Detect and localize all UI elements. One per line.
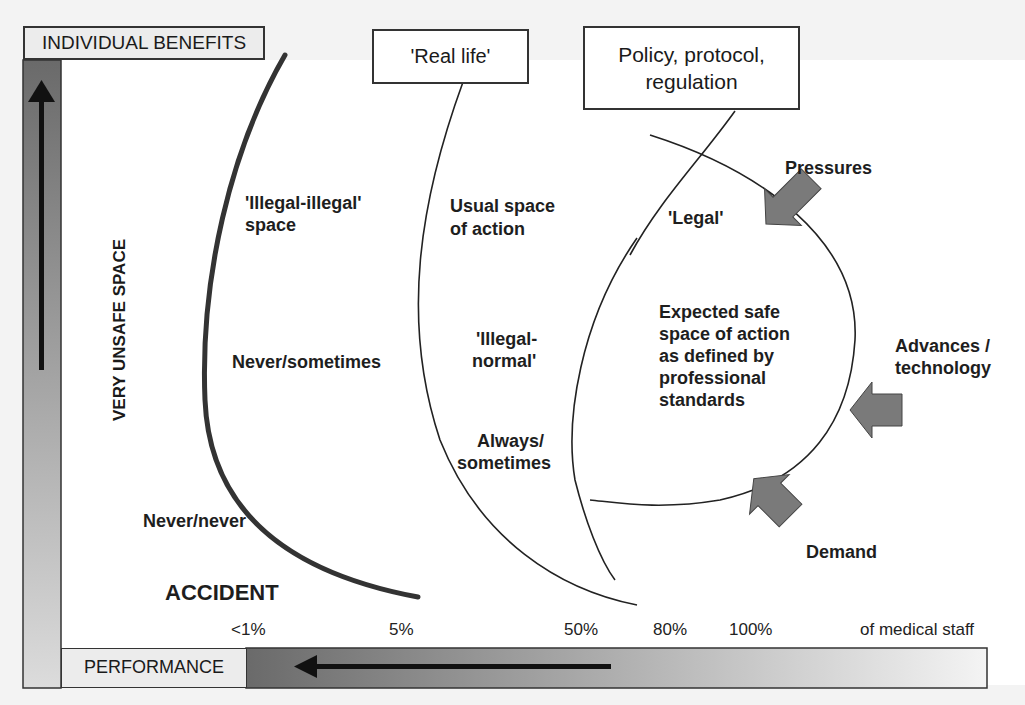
accident-label: ACCIDENT xyxy=(165,582,279,603)
individual-benefits-label: INDIVIDUAL BENEFITS xyxy=(23,26,265,60)
never-never-label: Never/never xyxy=(143,511,246,532)
tick-5: 5% xyxy=(389,620,414,640)
real-life-box: 'Real life' xyxy=(372,29,529,84)
illegal-illegal-label-2: space xyxy=(245,215,296,236)
illegal-normal-label-1: 'Illegal- xyxy=(476,329,537,350)
expected-line-1: Expected safe xyxy=(659,301,790,323)
usual-space-label-2: of action xyxy=(450,219,525,240)
tick-80: 80% xyxy=(653,620,687,640)
pressures-label: Pressures xyxy=(785,158,872,179)
expected-line-5: standards xyxy=(659,389,790,411)
expected-line-4: professional xyxy=(659,367,790,389)
illegal-illegal-label-1: 'Illegal-illegal' xyxy=(245,193,362,214)
advances-label-1: Advances / xyxy=(895,336,990,357)
legal-label: 'Legal' xyxy=(668,208,724,229)
always-sometimes-label-1: Always/ xyxy=(477,431,544,452)
never-sometimes-label: Never/sometimes xyxy=(232,352,381,373)
expected-line-2: space of action xyxy=(659,323,790,345)
demand-label: Demand xyxy=(806,542,877,563)
very-unsafe-space-label: VERY UNSAFE SPACE xyxy=(110,239,130,421)
advances-label-2: technology xyxy=(895,358,991,379)
policy-line-2: regulation xyxy=(585,68,798,95)
tick-lt1: <1% xyxy=(231,620,266,640)
policy-line-1: Policy, protocol, xyxy=(585,41,798,68)
usual-space-label-1: Usual space xyxy=(450,196,555,217)
always-sometimes-label-2: sometimes xyxy=(457,453,551,474)
expected-safe-space-label: Expected safe space of action as defined… xyxy=(659,301,790,411)
tick-50: 50% xyxy=(564,620,598,640)
ticks-suffix-label: of medical staff xyxy=(860,620,974,640)
performance-label: PERFORMANCE xyxy=(61,648,247,688)
tick-100: 100% xyxy=(729,620,772,640)
policy-box: Policy, protocol, regulation xyxy=(583,26,800,110)
expected-line-3: as defined by xyxy=(659,345,790,367)
illegal-normal-label-2: normal' xyxy=(472,351,536,372)
